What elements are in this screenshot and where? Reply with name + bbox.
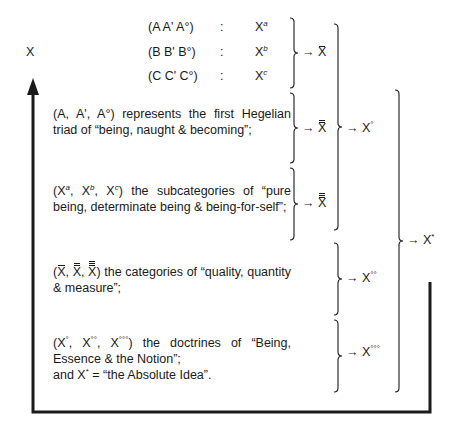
diagram-lines [0,0,458,435]
arrow-icon: → [302,121,315,135]
arrow-icon: → [346,345,359,359]
result-x-tbar: → X [302,196,326,211]
arrow-icon: → [346,121,359,135]
arrow-icon: → [407,233,420,247]
arrow-icon: → [302,196,315,210]
result-x-star: → X* [407,233,434,248]
arrow-icon: → [346,271,359,285]
brace-x-degree [334,24,342,230]
result-x-bar: → X [302,45,326,60]
brace-paragraph-1 [290,93,298,163]
result-x-dbar: → X [302,121,326,136]
result-x-degree3: → X°°° [346,345,380,360]
loop-arrowhead-icon [27,78,39,95]
brace-rows [290,18,298,88]
arrow-icon: → [302,45,315,59]
brace-x-degree3 [334,320,342,392]
feedback-loop-line [33,92,430,412]
result-x-degree2: → X°° [346,271,377,286]
result-x-degree: → X° [346,121,374,136]
brace-x-degree2 [334,243,342,315]
brace-paragraph-2 [290,168,298,240]
brace-x-star [395,90,403,392]
